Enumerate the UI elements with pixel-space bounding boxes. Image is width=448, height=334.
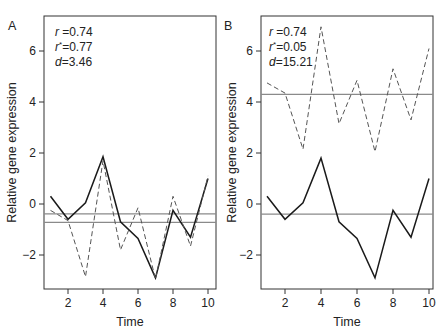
chart-canvas: ARelative gene expressionTime−2024624681… [0,0,448,334]
y-axis-label: Relative gene expression [5,82,19,222]
y-tick-label: 6 [246,44,253,58]
stat-annotation: d=15.21 [269,55,313,69]
solid-series-line [267,158,429,278]
stat-annotation: r*=0.77 [55,40,93,54]
stat-annotation: r*=0.05 [269,40,307,54]
y-axis-label: Relative gene expression [225,82,239,222]
x-tick-label: 4 [100,296,107,310]
x-axis-label: Time [116,315,143,329]
x-tick-label: 2 [282,296,289,310]
x-tick-label: 4 [318,296,325,310]
dashed-series-line [51,161,209,280]
y-tick-label: −2 [22,248,36,262]
x-tick-label: 2 [65,296,72,310]
solid-series-line [51,157,209,278]
y-tick-label: 4 [29,95,36,109]
stat-annotation: d=3.46 [55,55,92,69]
y-tick-label: 4 [246,95,253,109]
x-tick-label: 6 [135,296,142,310]
x-tick-label: 8 [390,296,397,310]
x-tick-label: 8 [170,296,177,310]
stat-annotation: r =0.74 [55,25,93,39]
x-tick-label: 6 [354,296,361,310]
y-tick-label: −2 [239,248,253,262]
panel-letter: A [8,19,17,33]
figure: ARelative gene expressionTime−2024624681… [0,0,448,334]
y-tick-label: 6 [29,44,36,58]
panel-letter: B [224,19,232,33]
x-tick-label: 10 [201,296,215,310]
panel-a: ARelative gene expressionTime−2024624681… [5,16,216,329]
x-tick-label: 10 [422,296,436,310]
stat-annotation: r =0.74 [269,25,307,39]
y-tick-label: 0 [246,197,253,211]
y-tick-label: 2 [246,146,253,160]
y-tick-label: 2 [29,146,36,160]
panel-b: BRelative gene expressionTime−2024624681… [224,16,436,329]
x-axis-label: Time [333,315,360,329]
y-tick-label: 0 [29,197,36,211]
